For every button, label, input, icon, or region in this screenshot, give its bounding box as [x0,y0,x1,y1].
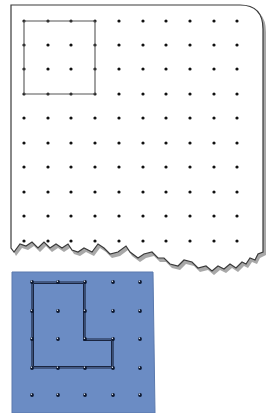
peg-highlight [84,394,85,395]
grid-dot [46,116,49,119]
grid-dot [235,239,238,242]
geoboard-peg [83,366,87,370]
grid-dot [22,239,25,242]
peg-highlight [31,338,32,339]
peg-highlight [139,310,140,311]
grid-dot [235,141,238,144]
grid-dot [22,165,25,168]
grid-dot [22,214,25,217]
grid-dot [212,141,215,144]
peg-highlight [31,394,32,395]
grid-dot [69,141,72,144]
geoboard-peg [56,309,60,313]
grid-dot [46,239,49,242]
dot-paper-and-geoboard-illustration [0,0,270,413]
grid-dot [212,19,215,22]
grid-dot [141,165,144,168]
grid-dot [188,67,191,70]
grid-dot [141,19,144,22]
grid-dot [69,165,72,168]
grid-dot [93,190,96,193]
grid-dot [69,239,72,242]
grid-dot [117,92,120,95]
grid-dot [141,239,144,242]
grid-dot [141,43,144,46]
grid-dot [117,116,120,119]
grid-dot [46,190,49,193]
grid-dot [164,214,167,217]
peg-highlight [112,338,113,339]
grid-dot [117,141,120,144]
grid-dot [164,239,167,242]
grid-dot [141,141,144,144]
grid-dot [212,67,215,70]
grid-dot [212,214,215,217]
grid-dot [93,239,96,242]
geoboard-peg [56,366,60,370]
geoboard-peg [30,280,34,284]
grid-dot [117,165,120,168]
peg-highlight [57,394,58,395]
grid-dot [212,116,215,119]
grid-dot [188,43,191,46]
geoboard-peg [56,337,60,341]
grid-dot [141,190,144,193]
geoboard-peg [83,309,87,313]
grid-dot [235,190,238,193]
geoboard-peg [30,393,34,397]
peg-highlight [57,281,58,282]
grid-dot [93,141,96,144]
grid-dot [22,141,25,144]
grid-dot [188,165,191,168]
geoboard-peg [30,309,34,313]
grid-dot [235,92,238,95]
peg-highlight [139,394,140,395]
grid-dot [212,239,215,242]
peg-highlight [84,310,85,311]
peg-highlight [84,367,85,368]
grid-dot [141,214,144,217]
peg-highlight [84,338,85,339]
grid-dot [164,43,167,46]
peg-highlight [57,338,58,339]
grid-dot [212,190,215,193]
geoboard-peg [111,309,115,313]
grid-dot [235,43,238,46]
grid-dot [46,214,49,217]
grid-dot [141,67,144,70]
peg-highlight [31,310,32,311]
grid-dot [235,214,238,217]
geoboard-peg [30,337,34,341]
grid-dot [69,116,72,119]
geoboard-peg [83,280,87,284]
grid-dot [164,190,167,193]
grid-dot [117,67,120,70]
geoboard-peg [138,337,142,341]
grid-dot [188,214,191,217]
geoboard-peg [83,337,87,341]
peg-highlight [31,367,32,368]
grid-dot [93,214,96,217]
geoboard-peg [111,280,115,284]
grid-dot [117,43,120,46]
grid-dot [212,165,215,168]
grid-dot [46,67,49,70]
grid-dot [188,92,191,95]
geoboard-peg [111,337,115,341]
geoboard [12,272,155,413]
peg-highlight [31,281,32,282]
grid-dot [141,116,144,119]
geoboard-peg [138,366,142,370]
geoboard-peg [111,393,115,397]
grid-dot [117,214,120,217]
geoboard-peg [56,393,60,397]
grid-dot [69,214,72,217]
grid-dot [117,19,120,22]
geoboard-peg [56,280,60,284]
peg-highlight [57,367,58,368]
grid-dot [235,116,238,119]
grid-dot [235,165,238,168]
peg-highlight [84,281,85,282]
geoboard-peg [30,366,34,370]
grid-dot [117,190,120,193]
